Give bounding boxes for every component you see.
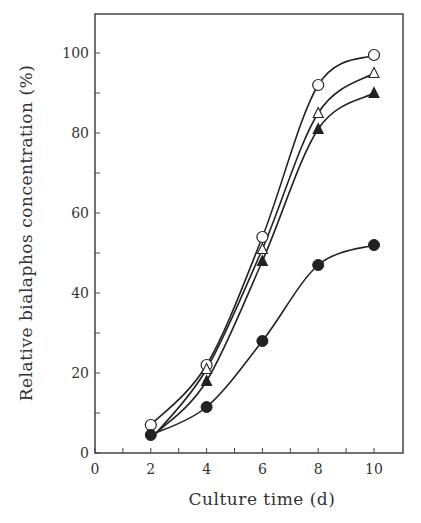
y-tick-label: 100 xyxy=(62,45,89,61)
chart: 0246810020406080100 Culture time (d) Rel… xyxy=(0,0,421,523)
filled-triangle-marker xyxy=(202,376,212,386)
y-tick-label: 80 xyxy=(71,125,89,141)
x-axis-title: Culture time (d) xyxy=(189,489,336,509)
tick-labels: 0246810020406080100 xyxy=(62,45,383,477)
x-tick-label: 4 xyxy=(202,461,211,477)
filled-circle-marker xyxy=(257,336,268,347)
open-circle-marker xyxy=(145,420,156,431)
x-tick-label: 10 xyxy=(365,461,383,477)
open-circle-marker xyxy=(313,80,324,91)
filled-circle-marker xyxy=(369,240,380,251)
y-tick-label: 0 xyxy=(80,445,89,461)
x-tick-label: 8 xyxy=(314,461,323,477)
plot-frame xyxy=(95,14,403,453)
filled-triangle-marker xyxy=(369,88,379,98)
filled-circle-marker xyxy=(145,430,156,441)
open-triangle-marker xyxy=(369,68,379,78)
y-tick-label: 40 xyxy=(71,285,89,301)
filled-circle-marker xyxy=(201,402,212,413)
series-markers xyxy=(145,50,379,441)
x-tick-label: 0 xyxy=(91,461,100,477)
filled-circle-marker xyxy=(313,260,324,271)
open-circle-marker xyxy=(369,50,380,61)
open-circle-marker xyxy=(257,232,268,243)
x-tick-label: 6 xyxy=(258,461,267,477)
x-tick-label: 2 xyxy=(146,461,155,477)
y-tick-label: 20 xyxy=(71,365,89,381)
y-tick-label: 60 xyxy=(71,205,89,221)
y-axis-title: Relative bialaphos concentration (%) xyxy=(16,65,36,402)
